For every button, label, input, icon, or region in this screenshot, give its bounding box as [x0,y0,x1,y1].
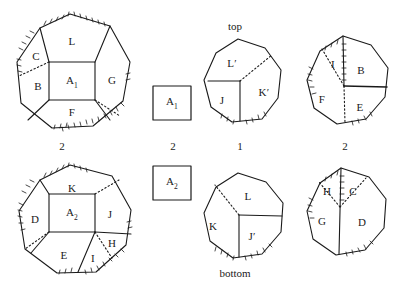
spoke-4 [95,100,110,120]
face-label-Lprime: L′ [227,57,237,69]
face-label-L-5: L [245,190,252,202]
spoke-1 [40,180,49,194]
face-label-Kprime: K′ [259,86,270,98]
face-label-G-6: G [318,215,326,227]
face-label-Jprime: J′ [248,230,255,242]
spoke-1 [40,28,49,62]
octagon-bottom-middle [204,173,283,260]
face-label-E-3: E [357,101,364,113]
number-square-a1: 2 [170,140,176,152]
figure-canvas: L C B G F A1 top L′ J K′ I B F E K D J H… [0,0,400,295]
spoke-3 [95,232,131,234]
octagon-top-right [307,36,388,125]
square-a1-letter: A [166,95,174,107]
fold-lines [240,55,272,81]
octagon-outline [307,168,386,255]
octagon-bottom-right [307,168,386,256]
number-top-middle: 1 [237,140,243,152]
face-label-L-1: L [69,35,76,47]
face-label-B-1: B [34,80,42,92]
number-top-right: 2 [342,140,348,152]
face-label-F-1: F [69,106,75,118]
face-label-I-4: I [91,252,95,264]
octagon-outline [307,36,388,124]
square-a1-sub: 1 [174,102,178,111]
center-label-a2-text: A [66,206,74,218]
number-top-left: 2 [59,140,65,152]
face-label-H-6: H [323,185,331,197]
face-label-D-4: D [31,213,39,225]
face-label-K-5: K [209,220,217,232]
face-label-J-4: J [108,208,112,220]
caption-top: top [228,20,242,32]
spoke-2 [95,26,110,62]
face-label-H-4: H [108,237,116,249]
face-label-B-3: B [357,64,365,76]
caption-bottom: bottom [219,267,250,279]
face-label-E-4: E [61,249,68,261]
square-a2-label: A2 [166,175,178,190]
center-label-a2-sub: 2 [74,213,78,222]
spoke-up [343,36,344,86]
face-label-I-3: I [331,58,335,70]
face-label-G-1: G [108,74,116,86]
spoke-vertical [339,168,341,254]
fold-lines [215,185,239,215]
face-label-K-4: K [68,182,76,194]
center-label-a2: A2 [66,206,78,221]
face-label-D-6: D [358,216,366,228]
face-label-F-3: F [319,93,325,105]
octagon-top-middle [204,39,281,124]
face-label-C-1: C [32,50,40,62]
spoke-right [344,86,387,87]
edge-ticks [221,112,266,124]
face-label-J-2: J [220,94,224,106]
center-label-a1-sub: 1 [74,81,78,90]
square-a1-label: A1 [166,95,178,110]
square-a2-sub: 2 [174,182,178,191]
square-a2-letter: A [166,175,174,187]
center-label-a1-text: A [66,74,74,86]
spoke-right [239,215,282,216]
center-label-a1: A1 [66,74,78,89]
face-label-C-6: C [349,185,357,197]
